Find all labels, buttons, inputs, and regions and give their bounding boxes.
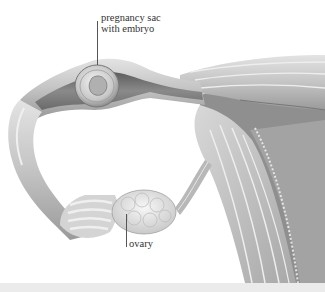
bottom-strip [0, 283, 325, 292]
anatomy-illustration: pregnancy sac with embryo ovary [0, 0, 325, 292]
ovary-label: ovary [129, 238, 153, 249]
sac-label-line-2: with embryo [101, 23, 161, 34]
sac-label: pregnancy sac with embryo [101, 12, 161, 34]
ovary-leader-line [126, 214, 127, 247]
sac-label-line-1: pregnancy sac [101, 12, 161, 23]
ovary [112, 190, 176, 234]
fallopian-tube-drawing [0, 0, 325, 292]
pregnancy-sac [75, 65, 119, 107]
ovary-label-text: ovary [129, 238, 153, 249]
ovarian-ligament [175, 160, 212, 215]
fimbriae [60, 195, 118, 238]
embryo [89, 76, 107, 95]
sac-leader-line [97, 21, 98, 65]
